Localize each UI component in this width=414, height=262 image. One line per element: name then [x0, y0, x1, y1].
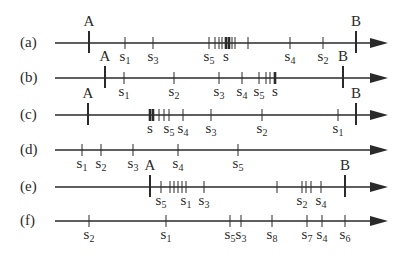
- tick-label: s4: [178, 121, 189, 140]
- arrowhead-icon: [370, 73, 388, 83]
- arrowhead-icon: [370, 38, 388, 48]
- tick-label: s1: [77, 156, 88, 175]
- tick-label: s1: [161, 227, 172, 246]
- tick-label: s1: [120, 49, 131, 68]
- tick-label: s4: [173, 156, 184, 175]
- tick-label: s8: [267, 227, 278, 246]
- row-label-c: (c): [20, 107, 37, 122]
- tick-label: s3: [148, 49, 159, 68]
- tick-label: s5: [225, 227, 236, 246]
- tick-label: s6: [340, 227, 351, 246]
- marker-b-label: B: [338, 49, 348, 64]
- tick-label: s4: [285, 49, 296, 68]
- row-label-b: (b): [20, 70, 38, 85]
- tick-label: s3: [199, 193, 210, 212]
- tick-label: s5: [254, 84, 265, 103]
- row-label-e: (e): [20, 179, 37, 194]
- tick-label: s: [223, 49, 229, 64]
- tick-label: s5: [156, 193, 167, 212]
- tick-label: s4: [316, 193, 327, 212]
- number-line-diagram: (a)s1s3s5ss4s2AB(b)s1s2s3s4s5sAB(c)ss5s4…: [0, 0, 414, 262]
- tick-label: s2: [169, 84, 180, 103]
- tick-label: s5: [164, 121, 175, 140]
- marker-a-label: A: [145, 158, 156, 173]
- arrowhead-icon: [370, 110, 388, 120]
- marker-a-label: A: [83, 86, 94, 101]
- tick-label: s5: [204, 49, 215, 68]
- tick-label: s2: [84, 227, 95, 246]
- tick-label: s1: [119, 84, 130, 103]
- tick-label: s2: [96, 156, 107, 175]
- tick-label: s2: [318, 49, 329, 68]
- marker-b-label: B: [351, 86, 361, 101]
- arrowhead-icon: [370, 182, 388, 192]
- tick-label: s1: [181, 193, 192, 212]
- tick-label: s3: [236, 227, 247, 246]
- tick-label: s3: [128, 156, 139, 175]
- tick-label: s4: [317, 227, 328, 246]
- tick-label: s2: [297, 193, 308, 212]
- marker-a-label: A: [84, 14, 95, 29]
- tick-label: s1: [333, 121, 344, 140]
- arrowhead-icon: [370, 145, 388, 155]
- tick-label: s: [272, 84, 278, 99]
- tick-label: s4: [237, 84, 248, 103]
- arrowhead-icon: [370, 216, 388, 226]
- row-label-f: (f): [20, 213, 35, 228]
- tick-label: s7: [302, 227, 313, 246]
- tick-label: s3: [206, 121, 217, 140]
- tick-label: s2: [257, 121, 268, 140]
- row-label-a: (a): [20, 35, 37, 50]
- tick-label: s5: [233, 156, 244, 175]
- tick-label: s: [147, 121, 153, 136]
- marker-b-label: B: [340, 158, 350, 173]
- marker-a-label: A: [100, 49, 111, 64]
- row-label-d: (d): [20, 142, 38, 157]
- marker-b-label: B: [351, 14, 361, 29]
- tick-label: s3: [214, 84, 225, 103]
